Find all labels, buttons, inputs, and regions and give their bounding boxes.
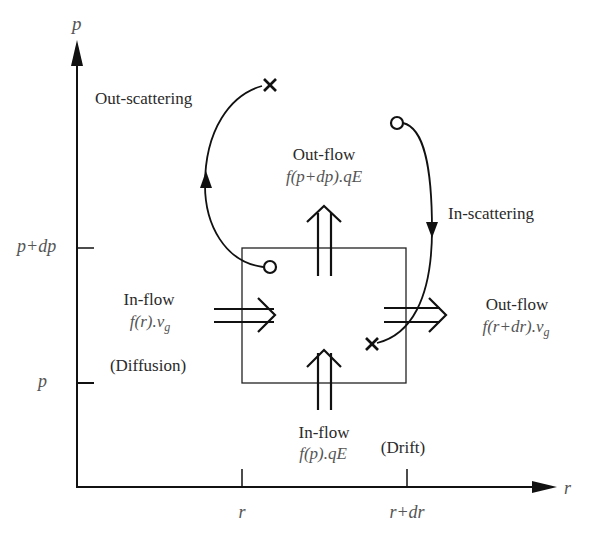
phase-space-diagram: p r p+dp p r r+dr Out-scattering In-scat… bbox=[0, 0, 592, 534]
left-inflow-arrow-icon bbox=[214, 298, 275, 332]
right-outflow-formula-text: f(r+dr).v bbox=[482, 317, 543, 336]
bottom-inflow-formula: f(p).qE bbox=[299, 445, 347, 462]
left-inflow-formula: f(r).vg bbox=[130, 313, 170, 333]
out-scattering-arrow-icon bbox=[200, 171, 212, 188]
in-scattering-label: In-scattering bbox=[448, 205, 534, 222]
bottom-inflow-note: (Drift) bbox=[381, 439, 425, 456]
right-outflow-arrow-icon bbox=[384, 298, 446, 332]
left-inflow-note: (Diffusion) bbox=[110, 357, 186, 374]
top-outflow-arrow-icon bbox=[307, 206, 341, 276]
bottom-inflow-title: In-flow bbox=[299, 424, 350, 441]
in-scattering-path bbox=[366, 117, 438, 350]
left-inflow-title: In-flow bbox=[124, 291, 175, 308]
top-outflow-formula: f(p+dp).qE bbox=[286, 168, 362, 185]
left-inflow-formula-text: f(r).v bbox=[130, 312, 164, 331]
out-scattering-end-x-icon bbox=[264, 79, 276, 91]
diagram-canvas bbox=[0, 0, 592, 534]
x-axis-arrow-icon bbox=[532, 481, 557, 493]
y-axis bbox=[71, 40, 94, 488]
y-tick-label-p: p bbox=[38, 372, 47, 390]
top-outflow-title: Out-flow bbox=[293, 146, 355, 163]
in-scattering-origin-circle-icon bbox=[391, 117, 403, 129]
y-axis-label: p bbox=[72, 14, 82, 33]
out-scattering-path bbox=[200, 79, 276, 273]
x-tick-label-r-dr: r+dr bbox=[389, 503, 424, 521]
right-outflow-formula-subscript: g bbox=[544, 325, 550, 339]
out-scattering-origin-circle-icon bbox=[264, 261, 276, 273]
right-outflow-title: Out-flow bbox=[486, 296, 548, 313]
right-outflow-formula: f(r+dr).vg bbox=[482, 318, 549, 338]
y-axis-arrow-icon bbox=[71, 40, 83, 66]
bottom-inflow-arrow-icon bbox=[307, 350, 341, 410]
x-axis-label: r bbox=[564, 479, 571, 497]
in-scattering-arrow-icon bbox=[426, 222, 438, 238]
out-scattering-label: Out-scattering bbox=[95, 90, 192, 107]
y-tick-label-p-dp: p+dp bbox=[17, 237, 56, 255]
in-scattering-end-x-icon bbox=[366, 338, 378, 350]
x-tick-label-r: r bbox=[238, 503, 245, 521]
left-inflow-formula-subscript: g bbox=[164, 320, 170, 334]
x-axis bbox=[77, 469, 557, 493]
